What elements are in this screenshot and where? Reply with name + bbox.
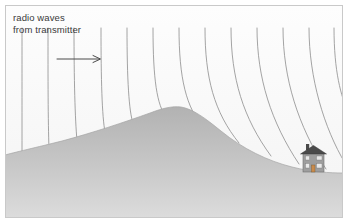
house-window — [317, 164, 323, 169]
diagram-figure: radio waves from transmitter — [0, 0, 348, 224]
house-window — [306, 156, 310, 160]
house-window — [306, 164, 310, 169]
caption-line-2: from transmitter — [13, 24, 81, 36]
caption-line-1: radio waves — [13, 12, 65, 24]
house-window — [317, 156, 323, 160]
house-door — [312, 165, 316, 172]
